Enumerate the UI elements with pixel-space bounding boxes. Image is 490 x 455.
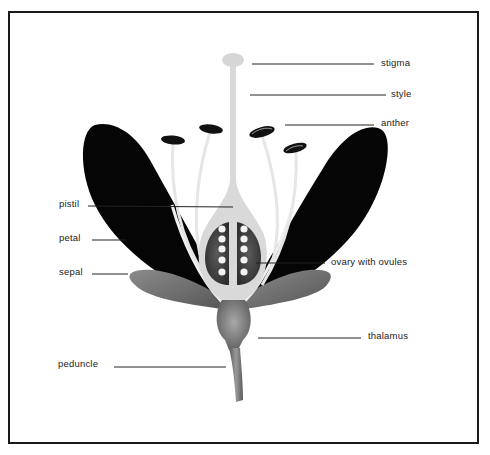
flower-illustration (0, 0, 490, 455)
stigma (222, 53, 244, 67)
label-petal: petal (59, 232, 81, 243)
label-style: style (391, 88, 412, 99)
anther-1 (161, 134, 186, 145)
label-ovary-with-ovules: ovary with ovules (331, 256, 407, 267)
anther-2 (198, 123, 223, 135)
label-anther: anther (381, 117, 409, 128)
peduncle (229, 348, 243, 402)
thalamus (217, 300, 251, 350)
label-stigma: stigma (381, 57, 410, 68)
label-sepal: sepal (59, 266, 83, 277)
label-thalamus: thalamus (368, 330, 408, 341)
label-pistil: pistil (59, 198, 79, 209)
label-peduncle: peduncle (58, 358, 98, 369)
